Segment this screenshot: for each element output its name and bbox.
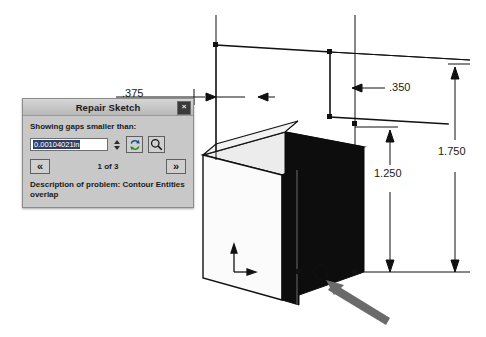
solid-body xyxy=(203,121,364,305)
zoom-to-gap-button[interactable] xyxy=(148,136,165,153)
stepper-up-icon[interactable] xyxy=(114,140,120,144)
gap-value-input[interactable]: 0.00104021in xyxy=(30,138,108,151)
close-icon[interactable]: × xyxy=(177,101,191,115)
showing-gaps-label: Showing gaps smaller than: xyxy=(30,122,186,131)
dialog-titlebar[interactable]: Repair Sketch × xyxy=(23,99,193,116)
arrowhead-1250-down xyxy=(386,260,394,272)
dimension-1750 xyxy=(448,64,470,272)
dialog-body: Showing gaps smaller than: 0.00104021in xyxy=(23,116,193,207)
previous-problem-button[interactable]: « xyxy=(30,159,50,174)
magnifier-icon xyxy=(150,138,163,151)
screenshot-root: .375 .350 1.250 1.750 Repair Sketch × Sh… xyxy=(0,0,486,337)
next-problem-button[interactable]: » xyxy=(166,159,186,174)
arrowhead-1250-up xyxy=(386,130,394,142)
refresh-icon xyxy=(129,139,141,151)
refresh-button[interactable] xyxy=(126,136,143,153)
gap-value-stepper[interactable] xyxy=(112,138,121,152)
problem-description: Description of problem: Contour Entities… xyxy=(30,180,186,200)
dialog-title: Repair Sketch xyxy=(76,102,141,113)
gap-value-row: 0.00104021in xyxy=(30,136,186,153)
repair-sketch-dialog: Repair Sketch × Showing gaps smaller tha… xyxy=(22,98,194,208)
problem-counter: 1 of 3 xyxy=(50,162,166,171)
dimension-350 xyxy=(352,84,385,92)
dimension-label-350: .350 xyxy=(389,81,410,93)
callout-arrow xyxy=(326,280,390,325)
arrowhead-1750-up xyxy=(451,67,459,79)
arrowhead-left xyxy=(206,93,216,101)
dimension-label-1250: 1.250 xyxy=(374,167,402,179)
gap-value-text: 0.00104021in xyxy=(33,140,80,149)
arrowhead-1750-down xyxy=(451,260,459,272)
stepper-down-icon[interactable] xyxy=(114,146,120,150)
extension-line-top xyxy=(330,52,470,60)
dimension-label-1750: 1.750 xyxy=(438,145,466,157)
navigation-row: « 1 of 3 » xyxy=(30,159,186,174)
arrowhead-350 xyxy=(352,84,362,92)
shaded-right-face-lower xyxy=(282,170,299,305)
front-left-face xyxy=(203,155,282,300)
